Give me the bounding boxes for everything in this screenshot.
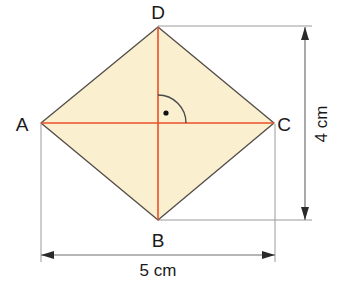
vertex-label-b: B <box>152 230 165 251</box>
dimension-height: 4 cm <box>301 27 331 220</box>
vertex-label-a: A <box>16 114 29 135</box>
right-angle-dot-icon <box>163 110 168 115</box>
arrowhead-left-icon <box>41 251 54 259</box>
diagonals <box>41 27 274 220</box>
rhombus-diagram: 4 cm 5 cm A B C D <box>0 0 340 282</box>
arrowhead-down-icon <box>301 207 309 220</box>
dimension-label-width: 5 cm <box>140 261 177 280</box>
vertex-label-d: D <box>151 2 165 23</box>
geometry-figure: 4 cm 5 cm A B C D <box>0 0 340 282</box>
dimension-width: 5 cm <box>41 251 275 280</box>
vertex-label-c: C <box>277 114 291 135</box>
arrowhead-right-icon <box>262 251 275 259</box>
dimension-label-height: 4 cm <box>312 106 331 143</box>
arrowhead-up-icon <box>301 27 309 40</box>
